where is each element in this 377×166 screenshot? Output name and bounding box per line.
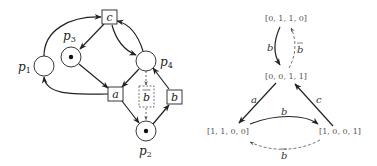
state-0011: [0, 0, 1, 1] (265, 72, 307, 81)
arc-p4-a (122, 69, 139, 87)
place-p3-label: p3 (63, 29, 76, 44)
edge-label-bbar-bottom: b (281, 150, 287, 161)
place-p4 (136, 51, 156, 71)
place-p1-label: p1 (18, 60, 31, 75)
place-p2-label: p2 (139, 144, 152, 159)
transition-b-label: b (171, 91, 178, 104)
edge-0011-0110-bbar (289, 28, 295, 68)
edge-1001-1100-bbar (250, 140, 320, 149)
place-p4-label: p4 (160, 55, 173, 70)
arc-p3-a (79, 64, 108, 88)
petri-net: c a b b p1 p3 p4 p2 (18, 10, 182, 159)
state-1001: [1, 0, 0, 1] (319, 127, 361, 136)
edge-0110-0011-b (275, 27, 280, 65)
reachability-graph: [0, 1, 1, 0] [0, 0, 1, 1] [1, 1, 0, 0] [… (207, 14, 361, 161)
state-0110: [0, 1, 1, 0] (265, 14, 307, 23)
token-p2 (144, 129, 148, 133)
transition-c-label: c (106, 11, 112, 24)
token-p3 (69, 55, 73, 59)
arc-c-p4 (112, 25, 136, 55)
arc-c-p3 (80, 24, 104, 49)
edge-1001-0011-c (295, 84, 333, 126)
edge-label-b-top: b (267, 42, 273, 53)
edge-label-bbar-top: b (297, 44, 303, 55)
edge-label-b-bottom: b (281, 106, 287, 117)
arc-b-p4 (153, 68, 169, 89)
diagram-canvas: c a b b p1 p3 p4 p2 [0, 1, 1, 0] [0, 0, … (0, 0, 377, 166)
edge-0011-1100-a (239, 83, 276, 123)
arc-a-p2 (122, 101, 139, 123)
edge-label-c: c (316, 94, 322, 105)
transition-a-label: a (112, 88, 119, 101)
edge-1100-1001-b (250, 117, 318, 125)
edge-label-a: a (251, 94, 257, 105)
arc-p4-c (117, 21, 143, 51)
state-1100: [1, 1, 0, 0] (207, 127, 249, 136)
transition-bbar-label: b (143, 91, 150, 104)
place-p1 (34, 56, 54, 76)
arc-p2-b (153, 105, 169, 124)
